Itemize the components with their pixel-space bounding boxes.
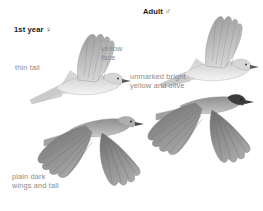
annotation-unmarked-bright-yellow-and-olive: unmarked bright yellow and olive: [130, 73, 186, 90]
bird-identification-plate: 1st year♀ Adult♂ yellow face thin tail u…: [0, 0, 263, 211]
male-symbol-icon: ♂: [163, 7, 171, 16]
annotation-thin-tail: thin tail: [15, 64, 40, 73]
female-symbol-icon: ♀: [44, 25, 52, 34]
heading-adult-text: Adult: [143, 7, 163, 16]
heading-first-year-text: 1st year: [14, 25, 44, 34]
heading-first-year: 1st year♀: [14, 25, 52, 35]
annotation-yellow-face: yellow face: [101, 45, 122, 62]
heading-adult: Adult♂: [143, 7, 171, 17]
annotation-plain-dark-wings-and-tail: plain dark wings and tail: [12, 173, 59, 190]
figure-adult-dorsal-view: [148, 95, 254, 163]
